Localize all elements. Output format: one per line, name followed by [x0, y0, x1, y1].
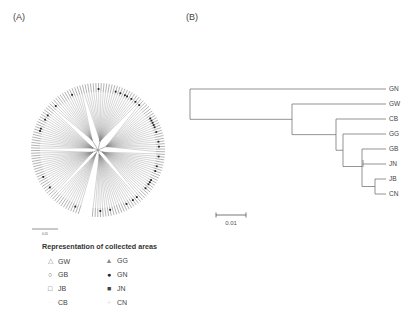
legend-item-jb: □JB [46, 285, 66, 292]
tree-b-scale-bar: 0.01 [216, 213, 246, 227]
tree-b-branches [190, 89, 386, 194]
filled-triangle-icon: ▲ [105, 257, 113, 264]
legend-item-gn: ●GN [105, 271, 128, 278]
faint-cross-icon: + [105, 299, 113, 306]
legend-item-gb: ○GB [46, 271, 68, 278]
legend-label: JB [58, 285, 66, 292]
legend-item-gg: ▲GG [105, 257, 128, 264]
legend-label: GB [58, 271, 68, 278]
legend-item-cn: +CN [105, 299, 127, 306]
legend-item-cb: ·CB [46, 299, 68, 306]
legend-item-gw: △GW [46, 257, 70, 265]
filled-circle-icon: ● [105, 271, 113, 278]
legend-grid: △GW○GB□JB·CB▲GG●GN■JN+CN [42, 251, 182, 311]
leaf-label-gb: GB [389, 145, 398, 152]
leaf-label-gn: GN [389, 85, 399, 92]
legend-title: Representation of collected areas [42, 242, 182, 251]
legend-label: CN [117, 299, 127, 306]
leaf-label-jb: JB [389, 175, 397, 182]
tree-b-leaf-labels: GNGWCBGGGBJNJBCN [389, 85, 401, 197]
open-square-icon: □ [46, 285, 54, 292]
tree-b-scale-label: 0.01 [225, 220, 237, 226]
legend-item-jn: ■JN [105, 285, 126, 292]
open-triangle-icon: △ [46, 257, 54, 265]
legend-label: JN [117, 285, 126, 292]
faint-mark-icon: · [46, 299, 54, 306]
legend-label: GN [117, 271, 128, 278]
leaf-label-cn: CN [389, 190, 399, 197]
leaf-label-gg: GG [389, 130, 399, 137]
legend-label: GW [58, 258, 70, 265]
filled-square-icon: ■ [105, 285, 113, 292]
legend-label: GG [117, 257, 128, 264]
leaf-label-gw: GW [389, 100, 401, 107]
open-circle-icon: ○ [46, 271, 54, 278]
leaf-label-jn: JN [389, 160, 397, 167]
leaf-label-cb: CB [389, 115, 398, 122]
legend: Representation of collected areas △GW○GB… [42, 242, 182, 311]
legend-label: CB [58, 299, 68, 306]
